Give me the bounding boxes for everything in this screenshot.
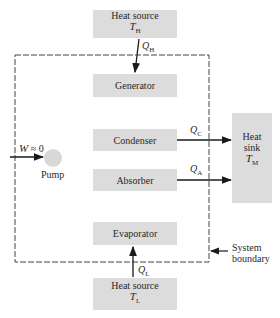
pump-label: Pump (41, 169, 64, 180)
heat-source-bottom-temp: TL (130, 291, 140, 307)
heat-sink-box: Heat sink TM (232, 113, 272, 203)
boundary-label-line1: System (232, 242, 270, 253)
pump-icon (44, 149, 62, 167)
evaporator-box: Evaporator (93, 222, 177, 245)
q-a-label: QA (190, 163, 202, 177)
absorber-label: Absorber (116, 175, 153, 186)
work-label: W ≈ 0 (19, 142, 44, 154)
condenser-label: Condenser (114, 135, 157, 146)
generator-label: Generator (115, 80, 155, 91)
absorber-box: Absorber (93, 169, 177, 191)
evaporator-label: Evaporator (113, 228, 157, 239)
heat-source-top-temp: TH (129, 21, 140, 37)
q-l-label: QL (138, 264, 150, 278)
boundary-label: System boundary (232, 242, 270, 264)
condenser-box: Condenser (93, 129, 177, 151)
heat-sink-temp: TM (246, 153, 258, 169)
q-c-label: QC (190, 124, 202, 138)
heat-source-top: Heat source TH (93, 10, 177, 38)
heat-sink-line1: Heat (243, 131, 262, 142)
boundary-label-line2: boundary (232, 253, 270, 264)
heat-source-bottom: Heat source TL (93, 278, 177, 310)
q-h-label: QH (142, 40, 154, 54)
generator-box: Generator (93, 74, 177, 97)
